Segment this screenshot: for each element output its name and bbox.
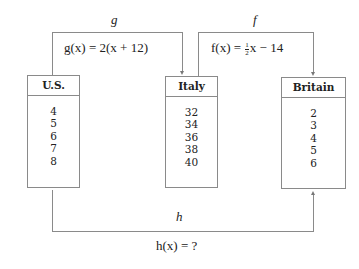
set-value: 40: [166, 156, 217, 168]
f-formula: f(x) = 12x − 14: [211, 40, 283, 57]
h-formula: h(x) = ?: [156, 238, 197, 254]
h-line-down: [52, 190, 53, 231]
set-value: 4: [28, 105, 79, 117]
set-value: 6: [282, 157, 345, 169]
f-formula-prefix: f(x) =: [211, 40, 244, 55]
set-values-us: 4 5 6 7 8: [28, 96, 79, 167]
set-box-us: U.S. 4 5 6 7 8: [27, 75, 80, 188]
f-line-top: [198, 32, 313, 33]
g-label: g: [111, 12, 118, 28]
g-formula-text: g(x) = 2(x + 12): [64, 40, 148, 55]
set-value: 3: [282, 119, 345, 131]
set-value: 6: [28, 130, 79, 142]
set-box-britain: Britain 2 3 4 5 6: [281, 77, 346, 189]
f-formula-fraction: 12: [245, 42, 249, 57]
g-formula: g(x) = 2(x + 12): [64, 40, 148, 56]
set-title-italy: Italy: [166, 77, 217, 97]
f-line-up: [198, 32, 199, 76]
g-line-top: [52, 32, 183, 33]
h-label: h: [176, 209, 183, 225]
set-value: 5: [282, 144, 345, 156]
set-value: 8: [28, 155, 79, 167]
h-line-bottom: [52, 231, 314, 232]
h-formula-text: h(x) = ?: [156, 238, 197, 253]
h-arrow-icon: [311, 191, 315, 195]
set-value: 38: [166, 143, 217, 155]
set-value: 2: [282, 107, 345, 119]
set-values-britain: 2 3 4 5 6: [282, 98, 345, 169]
h-line-up: [313, 194, 314, 232]
set-values-italy: 32 34 36 38 40: [166, 97, 217, 168]
g-arrow-icon: [180, 71, 184, 75]
g-line-up: [52, 32, 53, 75]
set-title-britain: Britain: [282, 78, 345, 98]
f-arrow-icon: [311, 72, 315, 76]
set-box-italy: Italy 32 34 36 38 40: [165, 76, 218, 188]
f-line-down: [313, 32, 314, 73]
set-value: 4: [282, 132, 345, 144]
set-title-us: U.S.: [28, 76, 79, 96]
f-formula-suffix: x − 14: [250, 40, 283, 55]
g-line-down: [182, 32, 183, 72]
set-value: 5: [28, 117, 79, 129]
set-value: 7: [28, 142, 79, 154]
set-value: 32: [166, 106, 217, 118]
f-label: f: [253, 12, 257, 28]
set-value: 34: [166, 118, 217, 130]
set-value: 36: [166, 131, 217, 143]
